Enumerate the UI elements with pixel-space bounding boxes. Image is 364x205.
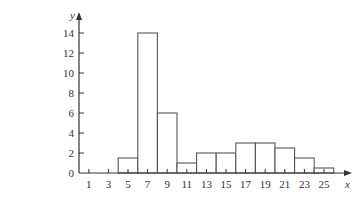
x-axis-label: x bbox=[344, 178, 350, 190]
y-tick-label: 8 bbox=[69, 87, 75, 99]
y-tick-label: 12 bbox=[63, 47, 74, 59]
histogram-bars bbox=[118, 33, 334, 173]
x-tick-label: 23 bbox=[299, 178, 311, 190]
x-tick-label: 21 bbox=[279, 178, 290, 190]
x-tick-label: 7 bbox=[145, 178, 151, 190]
y-axis-ticks: 02468101214 bbox=[63, 27, 84, 179]
x-tick-label: 15 bbox=[221, 178, 233, 190]
x-tick-label: 3 bbox=[106, 178, 112, 190]
y-tick-label: 6 bbox=[69, 107, 75, 119]
histogram-bar bbox=[157, 113, 177, 173]
y-tick-label: 14 bbox=[63, 27, 75, 39]
x-tick-label: 17 bbox=[240, 178, 252, 190]
histogram-chart: 135791113151719212325 02468101214 x y bbox=[0, 0, 364, 205]
x-tick-label: 19 bbox=[260, 178, 272, 190]
y-axis-label: y bbox=[69, 9, 75, 21]
y-tick-label: 4 bbox=[69, 127, 75, 139]
axes bbox=[76, 12, 352, 176]
histogram-bar bbox=[236, 143, 256, 173]
x-tick-label: 5 bbox=[125, 178, 131, 190]
x-tick-label: 9 bbox=[164, 178, 170, 190]
x-tick-label: 13 bbox=[201, 178, 213, 190]
histogram-bar bbox=[138, 33, 158, 173]
y-tick-label: 10 bbox=[63, 67, 75, 79]
histogram-bar bbox=[255, 143, 275, 173]
y-tick-label: 2 bbox=[69, 147, 75, 159]
x-axis-arrow-icon bbox=[344, 170, 352, 176]
x-tick-label: 11 bbox=[182, 178, 193, 190]
y-tick-label: 0 bbox=[69, 167, 75, 179]
y-axis-arrow-icon bbox=[76, 12, 82, 20]
x-tick-label: 25 bbox=[319, 178, 331, 190]
x-tick-label: 1 bbox=[86, 178, 92, 190]
